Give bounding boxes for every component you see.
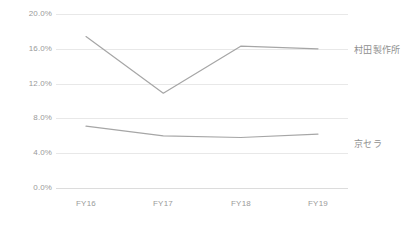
series-line [86,126,318,137]
series-label: 村田製作所 [354,43,401,56]
series-line [86,37,318,94]
series-lines [0,0,408,230]
series-label: 京セラ [354,137,382,150]
line-chart: 20.0%16.0%12.0%8.0%4.0%0.0% FY16FY17FY18… [0,0,408,230]
